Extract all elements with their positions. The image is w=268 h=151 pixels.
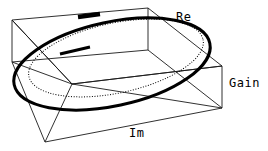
marker-top — [78, 14, 100, 17]
axis-label-im: Im — [129, 127, 144, 139]
axis-label-gain: Gain — [229, 77, 260, 89]
plot-figure: Re Gain Im — [0, 0, 268, 151]
box-post-front — [45, 84, 72, 142]
axis-label-re: Re — [176, 11, 191, 23]
marker-left — [60, 47, 90, 54]
